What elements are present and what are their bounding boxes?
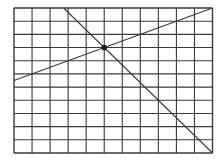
intersection-dot <box>101 45 107 51</box>
markers <box>101 45 107 51</box>
grid <box>14 8 213 153</box>
ascending-line <box>14 8 213 81</box>
grid-diagram <box>0 0 224 162</box>
lines <box>14 8 213 153</box>
